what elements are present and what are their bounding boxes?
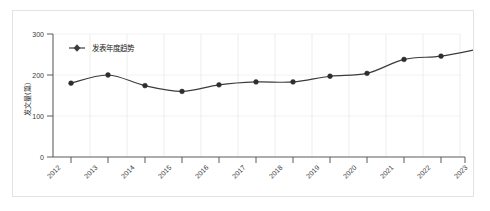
figure-root: 300 200 100 0 发文量(篇)	[0, 0, 490, 211]
x-tick-label-2014: 2014	[120, 164, 136, 180]
x-tick-label-2013: 2013	[83, 164, 99, 180]
y-tick-label-300: 300	[32, 31, 44, 38]
data-point-2020[interactable]	[365, 71, 370, 76]
x-tick-label-2022: 2022	[416, 164, 432, 180]
data-point-2016[interactable]	[217, 82, 222, 87]
data-point-2014[interactable]	[143, 83, 148, 88]
x-tick-label-2021: 2021	[379, 164, 395, 180]
data-point-2012[interactable]	[69, 81, 74, 86]
y-axis-title-group: 发文量(篇)	[23, 82, 32, 116]
series-markers[interactable]	[69, 47, 473, 94]
y-tick-label-0: 0	[40, 154, 44, 161]
data-point-2022[interactable]	[439, 54, 444, 59]
legend-diamond-marker-icon	[74, 44, 81, 52]
y-tick-label-100: 100	[32, 113, 44, 120]
x-tick-labels: 2012 2013 2014 2015 2016 2017 2018 2019 …	[46, 164, 469, 180]
data-point-2013[interactable]	[106, 73, 111, 78]
x-tick-label-2012: 2012	[46, 164, 62, 180]
line-chart[interactable]: 300 200 100 0 发文量(篇)	[13, 11, 473, 196]
data-point-2018[interactable]	[291, 80, 296, 85]
data-point-2015[interactable]	[180, 89, 185, 94]
legend-entry-label: 发表年度趋势	[92, 43, 135, 53]
y-tick-label-200: 200	[32, 72, 44, 79]
y-axis-title: 发文量(篇)	[23, 82, 32, 116]
x-axis	[53, 157, 465, 163]
x-tick-label-2023: 2023	[453, 164, 469, 180]
x-tick-label-2017: 2017	[231, 164, 247, 180]
data-point-2017[interactable]	[254, 80, 259, 85]
data-point-2021[interactable]	[402, 57, 407, 62]
x-tick-label-2015: 2015	[157, 164, 173, 180]
y-axis: 300 200 100 0	[32, 31, 53, 161]
series-line-publication-trend[interactable]	[71, 49, 473, 91]
x-tick-label-2020: 2020	[342, 164, 358, 180]
x-tick-label-2019: 2019	[305, 164, 321, 180]
chart-panel: 300 200 100 0 发文量(篇)	[12, 10, 474, 197]
x-tick-label-2018: 2018	[268, 164, 284, 180]
x-tick-label-2016: 2016	[194, 164, 210, 180]
data-point-2019[interactable]	[328, 74, 333, 79]
chart-legend[interactable]: 发表年度趋势	[69, 43, 135, 53]
